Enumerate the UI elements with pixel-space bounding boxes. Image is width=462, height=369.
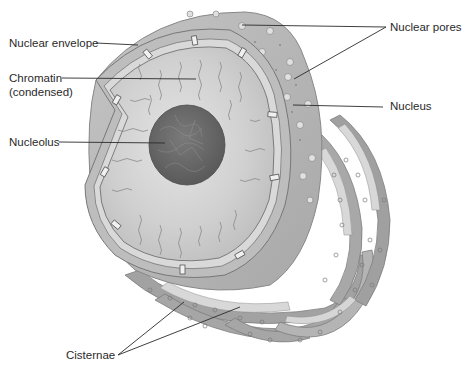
- label-nucleolus: Nucleolus: [9, 136, 60, 149]
- nucleus-diagram: [0, 0, 462, 369]
- label-nuclear-pores: Nuclear pores: [390, 21, 462, 34]
- label-chromatin-condensed: (condensed): [9, 86, 73, 99]
- nucleolus: [149, 105, 225, 185]
- label-nuclear-envelope: Nuclear envelope: [9, 37, 99, 50]
- label-nucleus: Nucleus: [390, 100, 432, 113]
- label-chromatin: Chromatin: [9, 72, 62, 85]
- label-cisternae: Cisternae: [66, 349, 115, 362]
